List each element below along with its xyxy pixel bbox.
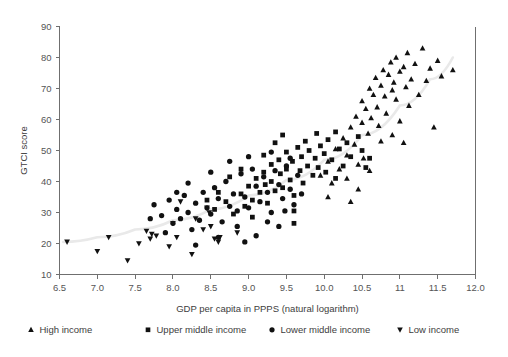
- data-point-square: [269, 162, 274, 167]
- y-tick-label: 80: [41, 52, 52, 63]
- data-point-square: [333, 176, 338, 181]
- data-point-circle: [235, 224, 240, 229]
- data-point-triangle-up: [380, 67, 386, 72]
- legend-item-lower-middle-income[interactable]: Lower middle income: [269, 324, 370, 335]
- data-point-circle: [280, 196, 285, 201]
- data-point-square: [363, 165, 368, 170]
- chart-canvas: 6.57.07.58.08.59.09.510.010.51111.512.0 …: [0, 0, 508, 357]
- data-point-triangle-up: [382, 93, 388, 98]
- data-point-triangle-up: [391, 79, 397, 84]
- data-point-square: [341, 164, 346, 169]
- data-point-circle: [284, 163, 289, 168]
- y-tick-label: 90: [41, 21, 52, 32]
- data-point-circle: [269, 327, 274, 332]
- data-point-circle: [246, 205, 251, 210]
- data-point-triangle-up: [348, 199, 354, 204]
- data-point-square: [329, 157, 334, 162]
- data-point-circle: [227, 204, 232, 209]
- data-point-circle: [269, 149, 274, 154]
- data-point-triangle-down: [200, 227, 206, 232]
- data-point-circle: [159, 213, 164, 218]
- data-point-triangle-up: [374, 104, 380, 109]
- series-lower-middle-income: [148, 149, 305, 247]
- data-point-circle: [163, 230, 168, 235]
- x-tick-label: 11.5: [429, 282, 447, 293]
- data-point-triangle-up: [403, 84, 409, 89]
- x-tick-label: 10.0: [315, 282, 334, 293]
- data-point-circle: [288, 156, 293, 161]
- y-tick-label: 40: [41, 176, 52, 187]
- data-point-circle: [269, 210, 274, 215]
- data-point-triangle-down: [94, 249, 100, 254]
- y-tick-label: 70: [41, 83, 52, 94]
- data-point-triangle-up: [340, 135, 346, 140]
- data-point-circle: [254, 233, 259, 238]
- data-point-square: [284, 150, 289, 155]
- data-point-circle: [174, 190, 179, 195]
- data-point-triangle-up: [397, 118, 403, 123]
- legend-label: High income: [40, 324, 93, 335]
- x-tick-label: 10.5: [353, 282, 372, 293]
- data-point-triangle-up: [325, 194, 331, 199]
- data-point-triangle-up: [401, 140, 407, 145]
- data-point-triangle-up: [405, 50, 411, 55]
- data-point-triangle-up: [318, 172, 324, 177]
- x-tick-label: 7.0: [91, 282, 104, 293]
- axes-layer: [60, 27, 476, 275]
- data-point-circle: [282, 208, 287, 213]
- data-point-square: [146, 327, 151, 332]
- data-point-triangle-up: [408, 76, 414, 81]
- data-point-circle: [216, 196, 221, 201]
- data-point-triangle-up: [431, 124, 437, 129]
- data-point-triangle-down: [153, 233, 159, 238]
- data-point-square: [323, 170, 328, 175]
- legend-item-low-income[interactable]: Low income: [397, 324, 459, 335]
- data-point-square: [212, 207, 217, 212]
- data-point-circle: [265, 190, 270, 195]
- x-axis-ticks: 6.57.07.58.08.59.09.510.010.51111.512.0: [53, 275, 485, 293]
- data-point-square: [303, 139, 308, 144]
- data-point-square: [314, 131, 319, 136]
- data-point-triangle-up: [359, 120, 365, 125]
- x-axis-title: GDP per capita in PPPS (natural logarith…: [176, 303, 359, 314]
- data-point-triangle-up: [348, 124, 354, 129]
- data-point-circle: [246, 154, 251, 159]
- data-point-square: [254, 176, 259, 181]
- data-point-circle: [167, 197, 172, 202]
- data-point-square: [216, 190, 221, 195]
- data-point-triangle-up: [393, 96, 399, 101]
- data-point-triangle-up: [363, 106, 369, 111]
- data-point-square: [276, 157, 281, 162]
- data-point-square: [301, 181, 306, 186]
- scatter-chart: 6.57.07.58.08.59.09.510.010.51111.512.0 …: [0, 0, 508, 357]
- data-point-triangle-up: [427, 65, 433, 70]
- legend-item-upper-middle-income[interactable]: Upper middle income: [146, 324, 247, 335]
- data-point-triangle-up: [373, 75, 379, 80]
- x-tick-label: 7.5: [129, 282, 142, 293]
- data-point-square: [313, 156, 318, 161]
- data-point-square: [273, 188, 278, 193]
- data-point-square: [250, 198, 255, 203]
- data-point-circle: [288, 187, 293, 192]
- x-tick-label: 9.0: [242, 282, 255, 293]
- data-point-triangle-down: [208, 224, 214, 229]
- data-point-square: [307, 148, 312, 153]
- data-point-triangle-down: [215, 240, 221, 245]
- x-tick-label: 6.5: [53, 282, 66, 293]
- data-point-circle: [182, 193, 187, 198]
- legend-label: Low income: [409, 324, 460, 335]
- data-point-triangle-up: [353, 113, 359, 118]
- data-point-triangle-up: [435, 58, 441, 63]
- data-point-square: [348, 154, 353, 159]
- data-point-square: [360, 148, 365, 153]
- data-point-triangle-down: [234, 230, 240, 235]
- data-point-square: [337, 147, 342, 152]
- y-tick-label: 10: [41, 269, 52, 280]
- data-point-circle: [193, 242, 198, 247]
- data-point-circle: [219, 219, 224, 224]
- legend-label: Upper middle income: [157, 324, 247, 335]
- data-point-triangle-up: [344, 175, 350, 180]
- legend-item-high-income[interactable]: High income: [28, 324, 92, 335]
- data-point-triangle-up: [355, 186, 361, 191]
- data-point-square: [292, 209, 297, 214]
